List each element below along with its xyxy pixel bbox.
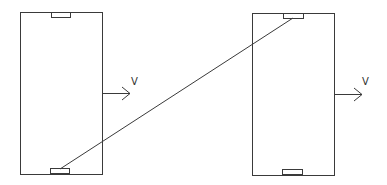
right-plate: V xyxy=(253,14,370,176)
right-plate-body xyxy=(253,14,335,176)
connector-line xyxy=(60,18,293,169)
right-plate-top-tab xyxy=(284,14,304,19)
left-plate-body xyxy=(21,13,103,175)
left-plate-velocity-label: V xyxy=(131,76,138,87)
left-plate-top-tab xyxy=(52,13,71,18)
right-plate-velocity-label: V xyxy=(362,76,369,87)
diagram-canvas: VV xyxy=(0,0,387,185)
left-plate: V xyxy=(21,13,139,175)
left-plate-bottom-tab xyxy=(51,169,70,174)
right-plate-bottom-tab xyxy=(283,170,303,175)
